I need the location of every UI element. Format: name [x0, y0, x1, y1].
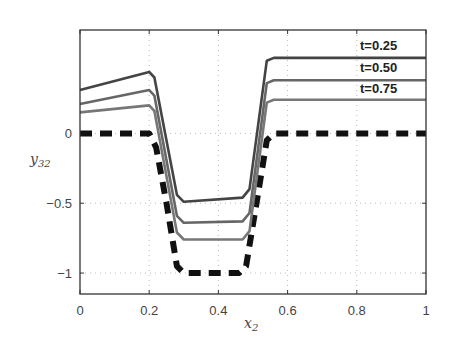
y-axis-label: y32 [29, 151, 51, 169]
x-tick-label: 0.2 [140, 303, 158, 318]
legend-t075: t=0.75 [360, 81, 397, 96]
x-tick-label: 0.4 [209, 303, 227, 318]
x-tick-label: 1 [422, 303, 429, 318]
x-tick-label: 0.6 [279, 303, 297, 318]
x-axis-label: x2 [244, 315, 258, 333]
legend-t025: t=0.25 [360, 38, 397, 53]
x-tick-label: 0.8 [348, 303, 366, 318]
x-tick-label: 0 [76, 303, 83, 318]
y-tick-label: −0.5 [46, 196, 72, 211]
chart: 00.20.40.60.810−0.5−1 t=0.25 t=0.50 t=0.… [0, 0, 454, 352]
y-tick-label: −1 [57, 266, 72, 281]
y-tick-label: 0 [65, 126, 72, 141]
legend-labels: t=0.25 t=0.50 t=0.75 [360, 38, 397, 96]
legend-t050: t=0.50 [360, 60, 397, 75]
